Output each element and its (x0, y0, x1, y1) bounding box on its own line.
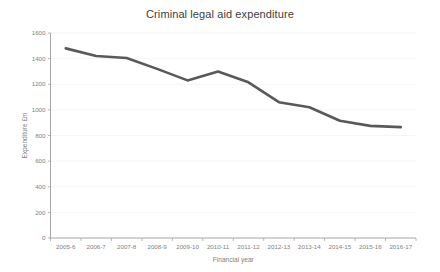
y-axis-tick-label: 200 (35, 209, 46, 216)
x-axis-tick-label: 2009-10 (176, 243, 199, 250)
y-axis-tick-label: 1200 (32, 80, 46, 87)
chart-container: Criminal legal aid expenditure 020040060… (0, 0, 440, 272)
y-axis-tick-label: 0 (42, 234, 46, 241)
x-axis-tick-label: 2007-8 (117, 243, 137, 250)
y-axis-tick-label: 600 (35, 157, 46, 164)
x-axis-tick-label: 2005-6 (56, 243, 76, 250)
data-series-line (66, 48, 401, 127)
x-axis-tick-label: 2014-15 (328, 243, 351, 250)
x-axis-tick-label: 2012-13 (268, 243, 291, 250)
x-axis-tick-label: 2006-7 (87, 243, 107, 250)
x-axis-tick-label: 2015-16 (359, 243, 382, 250)
y-axis-tick-label: 1000 (32, 106, 46, 113)
x-axis-tick-label: 2008-9 (147, 243, 167, 250)
x-axis-tick-label: 2016-17 (389, 243, 412, 250)
y-axis-tick-label: 800 (35, 132, 46, 139)
x-axis-tick-label: 2011-12 (237, 243, 260, 250)
y-axis-tick-label: 400 (35, 183, 46, 190)
line-chart-plot: 020040060080010001200140016002005-62006-… (0, 0, 440, 272)
x-axis-title: Financial year (213, 256, 255, 264)
y-axis-tick-label: 1400 (32, 55, 46, 62)
y-axis-title: Expenditure £m (21, 112, 29, 159)
y-axis-tick-label: 1600 (32, 29, 46, 36)
x-axis-tick-label: 2010-11 (207, 243, 230, 250)
x-axis-tick-label: 2013-14 (298, 243, 321, 250)
